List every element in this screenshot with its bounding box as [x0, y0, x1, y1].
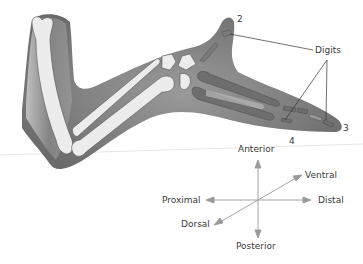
digit-2-label: 2	[237, 15, 243, 24]
distal-label: Distal	[318, 196, 344, 205]
proximal-arrowhead	[206, 197, 214, 203]
dorsal-arrowhead	[214, 218, 223, 225]
axis-arrows	[206, 160, 311, 238]
dorsal-label: Dorsal	[181, 220, 210, 229]
ventral-label: Ventral	[305, 171, 337, 180]
ventral-arrowhead	[293, 175, 302, 181]
digit-3-label: 3	[343, 124, 349, 133]
anterior-label: Anterior	[238, 145, 274, 154]
limb-diagram: 2 Digits 3 4 Anterior Posterior Proximal…	[0, 0, 363, 264]
proximal-label: Proximal	[162, 196, 201, 205]
posterior-arrowhead	[255, 230, 261, 238]
posterior-label: Posterior	[236, 242, 276, 251]
distal-arrowhead	[303, 197, 311, 203]
anterior-arrowhead	[255, 160, 261, 168]
digits-label: Digits	[315, 46, 341, 55]
digit-4-label: 4	[289, 137, 295, 146]
